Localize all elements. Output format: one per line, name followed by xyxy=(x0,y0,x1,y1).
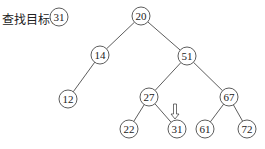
tree-edge xyxy=(155,63,181,91)
tree-node-51: 51 xyxy=(178,47,196,65)
tree-edge xyxy=(155,104,171,122)
tree-node-31: 31 xyxy=(168,120,186,138)
svg-text:27: 27 xyxy=(144,91,156,103)
svg-text:22: 22 xyxy=(124,123,135,135)
svg-text:20: 20 xyxy=(136,10,148,22)
svg-text:31: 31 xyxy=(54,11,65,23)
tree-node-12: 12 xyxy=(59,90,77,108)
down-arrow-icon xyxy=(171,104,179,119)
svg-text:14: 14 xyxy=(95,49,107,61)
tree-edge xyxy=(148,22,180,50)
tree-edge xyxy=(73,62,94,91)
svg-text:61: 61 xyxy=(200,123,211,135)
svg-text:12: 12 xyxy=(63,93,74,105)
tree-node-20: 20 xyxy=(132,7,150,25)
svg-text:72: 72 xyxy=(242,123,253,135)
tree-node-72: 72 xyxy=(238,120,256,138)
tree-node-27: 27 xyxy=(140,88,158,106)
tree-node-67: 67 xyxy=(220,88,238,106)
tree-edge xyxy=(134,105,144,122)
tree-node-22: 22 xyxy=(120,120,138,138)
svg-text:31: 31 xyxy=(172,123,183,135)
tree-node-14: 14 xyxy=(91,46,109,64)
svg-text:51: 51 xyxy=(182,50,193,62)
tree-edge xyxy=(233,105,242,121)
tree-edge xyxy=(210,104,223,122)
tree-edge xyxy=(107,22,135,49)
svg-text:67: 67 xyxy=(224,91,236,103)
tree-edge xyxy=(193,62,222,90)
target-node: 31 xyxy=(50,8,68,26)
tree-node-61: 61 xyxy=(196,120,214,138)
binary-search-tree: 2014511227672231617231 xyxy=(0,0,265,149)
